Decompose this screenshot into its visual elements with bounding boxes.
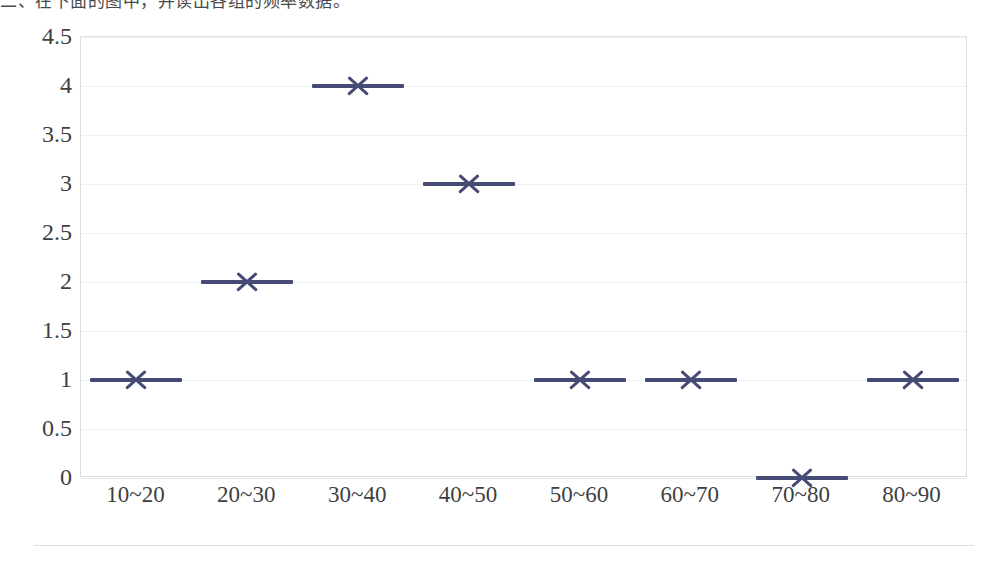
y-axis-tick-label: 4.5	[10, 24, 72, 48]
x-marker-icon	[123, 367, 149, 393]
data-series	[81, 37, 966, 476]
x-axis-tick-label: 40~50	[439, 483, 497, 506]
page-heading: 二、在下面的图中，并读出各组的频率数据。	[0, 0, 350, 12]
x-marker-icon	[567, 367, 593, 393]
y-axis-tick-label: 0	[10, 465, 72, 489]
y-axis-tick-label: 1.5	[10, 318, 72, 342]
x-marker-icon	[900, 367, 926, 393]
x-axis-tick-label: 60~70	[661, 483, 719, 506]
y-axis-tick-label: 4	[10, 73, 72, 97]
y-axis-tick-label: 3	[10, 171, 72, 195]
x-axis-tick-label: 50~60	[550, 483, 608, 506]
page-divider	[34, 545, 974, 546]
y-axis-tick-label: 0.5	[10, 416, 72, 440]
x-marker-icon	[678, 367, 704, 393]
x-axis-tick-label: 70~80	[771, 483, 829, 506]
x-axis-tick-label: 10~20	[106, 483, 164, 506]
chart-container: 4.543.532.521.510.50 10~2020~3030~4040~5…	[0, 18, 1006, 545]
y-axis-tick-label: 2	[10, 269, 72, 293]
y-axis: 4.543.532.521.510.50	[8, 18, 72, 545]
x-axis-tick-label: 20~30	[217, 483, 275, 506]
x-axis-tick-label: 80~90	[882, 483, 940, 506]
y-axis-tick-label: 3.5	[10, 122, 72, 146]
plot-area	[80, 36, 967, 477]
x-marker-icon	[345, 73, 371, 99]
x-marker-icon	[234, 269, 260, 295]
x-marker-icon	[456, 171, 482, 197]
x-axis-tick-label: 30~40	[328, 483, 386, 506]
header-text-strip: 二、在下面的图中，并读出各组的频率数据。	[0, 0, 1006, 18]
x-axis: 10~2020~3030~4040~5050~6060~7070~8080~90	[80, 483, 967, 523]
y-axis-tick-label: 1	[10, 367, 72, 391]
y-axis-tick-label: 2.5	[10, 220, 72, 244]
